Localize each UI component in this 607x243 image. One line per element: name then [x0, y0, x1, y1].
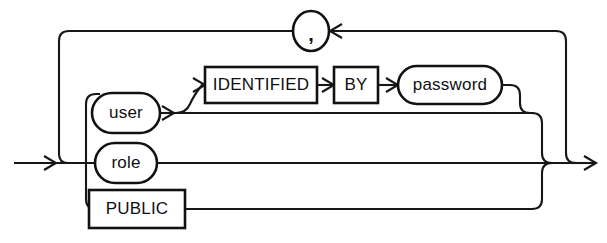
railroad-diagram-canvas: user IDENTIFIED BY password [0, 0, 607, 243]
node-identified-label: IDENTIFIED [213, 75, 309, 94]
exit-arrow-right [566, 156, 596, 170]
node-by-label: BY [344, 75, 367, 94]
node-password-label: password [413, 75, 487, 94]
merge-right [520, 113, 586, 163]
node-public-label: PUBLIC [106, 199, 169, 218]
row-identified-by-password: IDENTIFIED BY password [205, 66, 534, 113]
node-user-label: user [109, 103, 143, 122]
node-role-label: role [111, 153, 140, 172]
node-comma: , [293, 11, 329, 51]
row-public: PUBLIC [89, 163, 552, 228]
railroad-diagram: user IDENTIFIED BY password [0, 0, 607, 243]
row-role: role [95, 143, 586, 183]
node-comma-label: , [308, 23, 314, 45]
